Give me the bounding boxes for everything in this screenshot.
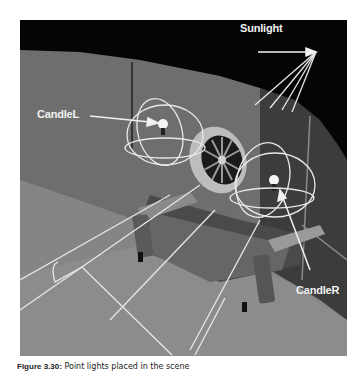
scene-render: Sunlight CandleL CandleR <box>20 20 347 356</box>
figure-caption: Figure 3.30: Point lights placed in the … <box>17 362 189 371</box>
sunlight-label: Sunlight <box>240 22 282 34</box>
candle-right-label: CandleR <box>296 284 339 296</box>
figure-number: Figure 3.30: <box>17 362 62 371</box>
candle-left-label: CandleL <box>37 108 79 120</box>
scene-illustration <box>20 20 347 356</box>
figure-caption-text: Point lights placed in the scene <box>64 362 189 371</box>
